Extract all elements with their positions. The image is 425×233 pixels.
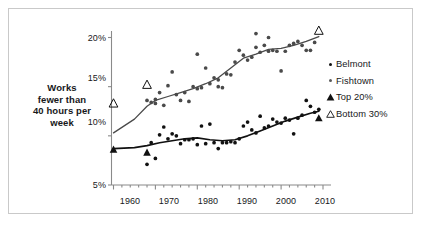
open-triangle-icon <box>325 110 336 118</box>
fishtown-dot-icon <box>325 79 336 82</box>
series-bottom-30- <box>109 26 323 107</box>
legend-item-bottom-30[interactable]: Bottom 30% <box>325 106 420 123</box>
legend-item-top-20[interactable]: Top 20% <box>325 89 420 106</box>
legend-label-top-20: Top 20% <box>336 92 373 102</box>
filled-triangle-icon <box>325 93 336 101</box>
legend-label-belmont: Belmont <box>336 59 371 69</box>
legend-label-fishtown: Fishtown <box>336 76 374 86</box>
chart-legend: Belmont Fishtown Top 20% Bottom 30% <box>325 56 420 122</box>
legend-item-fishtown[interactable]: Fishtown <box>325 73 420 90</box>
belmont-dot-icon <box>325 63 336 66</box>
legend-item-belmont[interactable]: Belmont <box>325 56 420 73</box>
legend-label-bottom-30: Bottom 30% <box>336 109 388 119</box>
series-fishtown <box>114 32 319 133</box>
